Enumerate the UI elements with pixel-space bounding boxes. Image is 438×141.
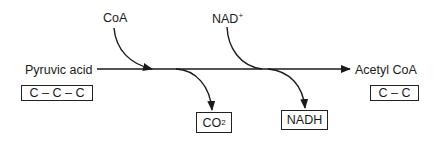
nad-input-arrow [227,27,262,69]
pyruvic-acid-label: Pyruvic acid [25,63,92,77]
acetyl-coa-label: Acetyl CoA [355,63,417,77]
co2-subscript: 2 [221,118,225,127]
coa-input-arrow [114,28,152,69]
acetyl-carbon-box: C – C [370,85,419,101]
co2-box: CO2 [196,112,232,133]
co2-output-arrow [176,69,212,110]
nad-label: NAD+ [212,9,243,26]
nad-charge: + [238,11,243,20]
coa-label: CoA [103,11,127,25]
pyruvic-carbon-box: C – C – C [21,85,93,101]
co2-text: CO [202,116,221,130]
nadh-output-arrow [268,69,305,108]
nad-text: NAD [212,12,238,26]
nadh-box: NADH [281,110,328,130]
